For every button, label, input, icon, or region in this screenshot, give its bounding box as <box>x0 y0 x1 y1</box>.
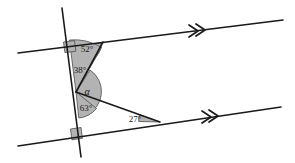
geometry-diagram-canvas: 52° 38° α 63° 27° <box>0 0 295 163</box>
angle-label-27: 27° <box>129 114 142 124</box>
angle-label-38: 38° <box>74 65 87 75</box>
angle-label-63: 63° <box>80 103 93 113</box>
angle-label-52: 52° <box>81 44 94 54</box>
angle-label-alpha: α <box>84 86 90 97</box>
bottom-parallel-line <box>18 107 281 146</box>
geometry-figure: 52° 38° α 63° 27° <box>0 0 295 163</box>
top-parallel-line <box>18 20 283 53</box>
